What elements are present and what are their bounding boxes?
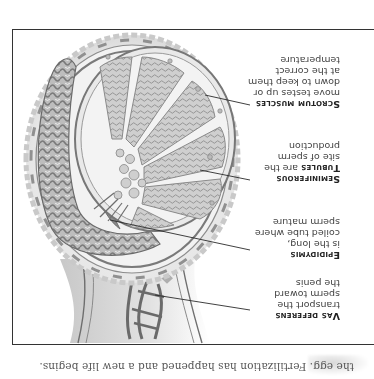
label-heading-continued: Tubules	[301, 163, 340, 174]
label-vas-deferens: Vas deferens transport the sperm toward …	[220, 278, 340, 322]
label-heading-line-2: Tubules are the	[220, 163, 340, 174]
label-heading: Epididymis	[220, 250, 340, 261]
label-line: temperature	[220, 55, 340, 66]
label-seminiferous-tubules: Seminiferous Tubules are the site of spe…	[220, 141, 340, 185]
label-line: move testes up or	[220, 88, 340, 99]
label-line: is the long,	[220, 239, 340, 250]
label-epididymis: Epididymis is the long, coiled tube wher…	[220, 217, 340, 261]
label-line: transport the	[220, 300, 340, 311]
label-line: site of sperm	[220, 152, 340, 163]
label-heading: Vas deferens	[220, 311, 340, 322]
label-line: down to keep them	[220, 77, 340, 88]
label-heading: Scrotum muscles	[220, 99, 340, 110]
label-line: the penis	[220, 278, 340, 289]
label-line: sperm toward	[220, 289, 340, 300]
label-line: coiled tube where	[220, 228, 340, 239]
label-line-tail: are the	[264, 163, 301, 174]
label-line: production	[220, 141, 340, 152]
testis	[75, 47, 235, 231]
label-scrotum-muscles: Scrotum muscles move testes up or down t…	[220, 55, 340, 110]
label-heading: Seminiferous	[220, 174, 340, 185]
label-line: sperm mature	[220, 217, 340, 228]
label-line: at the correct	[220, 66, 340, 77]
